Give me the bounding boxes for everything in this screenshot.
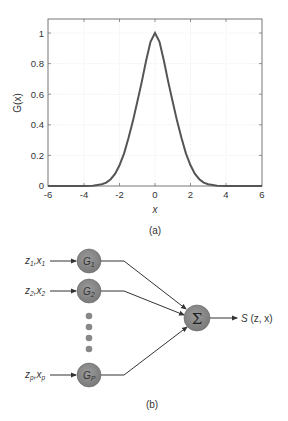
- x-tick: -2: [115, 189, 123, 200]
- grid: [48, 19, 262, 186]
- caption-a: (a): [149, 225, 161, 236]
- x-tick: 0: [152, 189, 157, 200]
- input-label-1: z1,x1: [24, 255, 45, 267]
- output-label: S (z, x): [241, 313, 273, 324]
- y-tick: 0.4: [31, 119, 44, 130]
- x-tick: -6: [44, 189, 52, 200]
- y-tick: 1: [39, 28, 44, 39]
- connector-p: [101, 327, 187, 375]
- y-tick: 0.2: [31, 150, 44, 161]
- y-tick: 0.6: [31, 89, 44, 100]
- x-tick: -4: [80, 189, 88, 200]
- connector-1: [101, 261, 186, 309]
- input-label-p: zp,xp: [24, 369, 45, 382]
- x-axis-label: x: [152, 204, 159, 215]
- input-label-2: z2,x2: [24, 285, 45, 297]
- connector-2: [101, 291, 184, 315]
- y-tick: 0: [39, 180, 44, 191]
- x-tick: 6: [259, 189, 264, 200]
- y-axis-label: G(x): [12, 93, 23, 112]
- plot-a: -6 -4 -2 0 2 4 6 0 0.2 0.4 0.6 0.8 1 G(x…: [12, 19, 265, 236]
- y-tick: 0.8: [31, 58, 44, 69]
- x-tick: 4: [223, 189, 228, 200]
- figure: -6 -4 -2 0 2 4 6 0 0.2 0.4 0.6 0.8 1 G(x…: [0, 0, 288, 421]
- diagram-b: G1 G2 GP Σ z1,x1 z2,x2 zp,xp S (z, x) (b…: [24, 249, 273, 410]
- sigma-icon: Σ: [192, 310, 203, 328]
- caption-b: (b): [146, 399, 158, 410]
- x-tick: 2: [188, 189, 193, 200]
- ellipsis-dots: [86, 313, 93, 353]
